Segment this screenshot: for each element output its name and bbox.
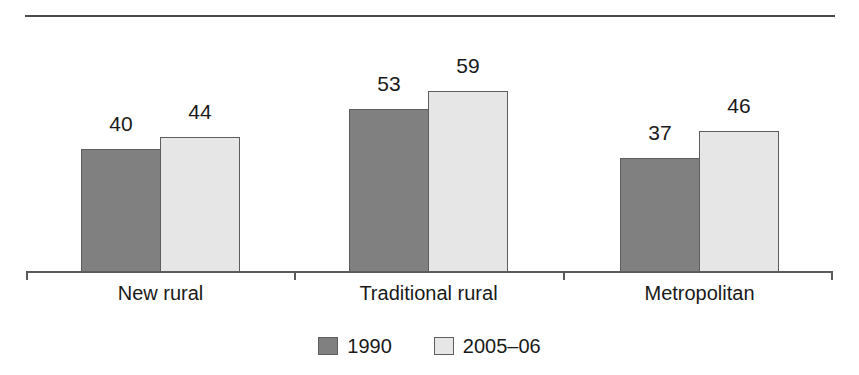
- x-axis-tick-end: [831, 271, 833, 280]
- legend-label-2005-06: 2005–06: [463, 336, 541, 356]
- legend-label-1990: 1990: [347, 336, 392, 356]
- value-label-new-rural-1990: 40: [81, 113, 161, 134]
- bar-traditional-rural-2005-06: [428, 91, 508, 272]
- plot-area: 40 44 New rural 53 59 Traditional rural …: [0, 0, 859, 375]
- category-label-traditional-rural: Traditional rural: [349, 282, 508, 304]
- legend-item-1990[interactable]: 1990: [318, 336, 392, 356]
- category-label-new-rural: New rural: [81, 282, 240, 304]
- x-axis-tick-2: [563, 271, 565, 280]
- value-label-new-rural-2005-06: 44: [160, 101, 240, 122]
- value-label-metropolitan-2005-06: 46: [699, 95, 779, 116]
- legend-item-2005-06[interactable]: 2005–06: [434, 336, 541, 356]
- light-gray-swatch-icon: [434, 337, 454, 355]
- bar-metropolitan-2005-06: [699, 131, 779, 272]
- bar-new-rural-1990: [81, 149, 161, 272]
- value-label-metropolitan-1990: 37: [620, 122, 700, 143]
- chart-legend: 1990 2005–06: [0, 336, 859, 356]
- bar-new-rural-2005-06: [160, 137, 240, 272]
- category-label-metropolitan: Metropolitan: [620, 282, 779, 304]
- dark-gray-swatch-icon: [318, 337, 338, 355]
- bar-chart-figure: 40 44 New rural 53 59 Traditional rural …: [0, 0, 859, 375]
- x-axis-tick-1: [294, 271, 296, 280]
- bar-metropolitan-1990: [620, 158, 700, 272]
- bar-traditional-rural-1990: [349, 109, 429, 272]
- value-label-traditional-rural-2005-06: 59: [428, 55, 508, 76]
- value-label-traditional-rural-1990: 53: [349, 73, 429, 94]
- x-axis-tick-start: [26, 271, 28, 280]
